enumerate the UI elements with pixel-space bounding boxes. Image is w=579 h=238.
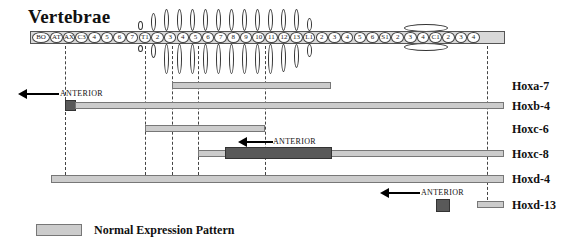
vertebra: 5 — [189, 32, 202, 43]
vertebra: 2 — [151, 32, 164, 43]
vertebra: 2 — [442, 32, 455, 43]
vertebra: 5 — [101, 32, 114, 43]
vertebra: T1 — [139, 32, 152, 43]
rib-shape — [281, 9, 286, 31]
vertebra: 3 — [455, 32, 468, 43]
guide-line — [172, 46, 173, 175]
gene-label-hoxc8: Hoxc-8 — [512, 147, 549, 161]
gene-label-hoxd13: Hoxd-13 — [512, 198, 556, 212]
rib-shape — [229, 44, 234, 74]
guide-line — [65, 112, 66, 175]
guide-line — [145, 46, 146, 175]
rib-shape — [138, 45, 143, 52]
vertebra: 3 — [328, 32, 341, 43]
vertebra: 7 — [126, 32, 139, 43]
hoxa7-normal-bar — [172, 82, 331, 89]
vertebra: 2 — [316, 32, 329, 43]
hoxc6-normal-bar — [145, 125, 265, 132]
legend-swatch — [36, 224, 82, 236]
vertebra: BO — [32, 32, 50, 43]
rib-shape — [307, 18, 312, 31]
vertebra: L1 — [303, 32, 316, 43]
hoxb4-normal-bar — [75, 102, 504, 109]
vertebra: 2 — [391, 32, 404, 43]
rib-shape — [294, 9, 299, 31]
vertebra: S1 — [379, 32, 392, 43]
anterior-label: ANTERIOR — [273, 137, 316, 147]
rib-shape — [177, 9, 182, 31]
rib-shape — [177, 44, 182, 74]
rib-shape — [203, 44, 208, 74]
vertebra: 13 — [290, 32, 303, 43]
rib-shape — [255, 44, 260, 74]
vertebra: AX — [63, 32, 76, 43]
vertebra: C1 — [429, 32, 442, 43]
rib-shape — [216, 9, 221, 31]
rib-shape — [294, 44, 299, 68]
anterior-arrow-icon — [387, 192, 420, 194]
rib-shape — [190, 9, 195, 31]
vertebra: 5 — [354, 32, 367, 43]
vertebra: 6 — [113, 32, 126, 43]
rib-shape — [203, 9, 208, 31]
rib-shape — [138, 21, 143, 30]
gene-label-hoxd4: Hoxd-4 — [512, 172, 550, 186]
anterior-arrow-icon — [25, 93, 59, 95]
vertebra: 4 — [177, 32, 190, 43]
vertebra: 4 — [88, 32, 101, 43]
vertebra: AT — [50, 32, 63, 43]
hoxd4-normal-bar — [51, 175, 504, 183]
rib-shape — [242, 9, 247, 31]
vertebra: 10 — [252, 32, 265, 43]
legend-label: Normal Expression Pattern — [94, 223, 234, 237]
rib-shape — [242, 44, 247, 74]
vertebra: 12 — [278, 32, 291, 43]
vertebra: 7 — [214, 32, 227, 43]
anterior-label: ANTERIOR — [60, 89, 103, 99]
vertebra: 4 — [417, 32, 430, 43]
rib-shape — [216, 44, 221, 74]
anterior-label: ANTERIOR — [421, 188, 464, 198]
vertebra: 9 — [240, 32, 253, 43]
vertebra: 8 — [227, 32, 240, 43]
rib-shape — [268, 9, 273, 31]
vertebra: 6 — [202, 32, 215, 43]
sacral-wing — [404, 43, 448, 51]
hoxd13-normal-bar — [477, 201, 504, 208]
rib-shape — [190, 44, 195, 74]
vertebra: 6 — [366, 32, 379, 43]
gene-label-hoxc6: Hoxc-6 — [512, 122, 549, 136]
rib-shape — [151, 44, 156, 58]
diagram-title: Vertebrae — [28, 6, 110, 28]
vertebrae-row: BOATAXC34567T12345678910111213L123456S12… — [30, 31, 505, 44]
rib-shape — [164, 44, 169, 74]
vertebra: C3 — [75, 32, 88, 43]
hoxd13-shifted-box — [436, 199, 450, 212]
vertebra: 4 — [467, 32, 480, 43]
vertebra: 4 — [341, 32, 354, 43]
rib-shape — [151, 13, 156, 31]
rib-shape — [268, 44, 273, 74]
rib-shape — [307, 44, 312, 57]
rib-shape — [255, 9, 260, 31]
rib-shape — [229, 9, 234, 31]
hoxc8-shifted-box — [225, 147, 332, 159]
vertebra: 11 — [265, 32, 278, 43]
gene-label-hoxb4: Hoxb-4 — [512, 99, 550, 113]
gene-label-hoxa7: Hoxa-7 — [512, 79, 549, 93]
anterior-arrow-icon — [245, 141, 273, 143]
vertebra: 3 — [164, 32, 177, 43]
rib-shape — [164, 9, 169, 31]
rib-shape — [281, 44, 286, 72]
vertebra: 3 — [404, 32, 417, 43]
